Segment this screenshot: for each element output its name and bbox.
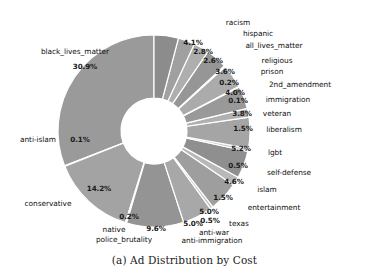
slice-category-label: entertainment <box>248 203 301 212</box>
donut-chart: 30.9%0.1%14.2%0.2%9.6%5.0%0.5%5.0%1.5%4.… <box>0 0 369 252</box>
slice-category-label: racism <box>226 18 250 27</box>
slice-percentage-label: 30.9% <box>73 62 97 71</box>
slice-percentage-label: 5.0% <box>199 207 219 216</box>
slice-percentage-label: 4.0% <box>225 88 245 97</box>
slice-category-label: texas <box>229 219 249 228</box>
slice-percentage-label: 0.5% <box>228 161 248 170</box>
figure-caption: (a) Ad Distribution by Cost <box>0 254 369 266</box>
slice-category-label: religious <box>262 56 293 65</box>
slice-category-label: black_lives_matter <box>41 47 109 56</box>
slice-category-label: hispanic <box>243 29 273 38</box>
slice-category-label: veteran <box>263 109 291 118</box>
slice-category-label: islam <box>257 185 276 194</box>
slice-category-label: anti-war <box>199 228 229 237</box>
slice-percentage-label: 0.5% <box>200 216 220 225</box>
slice-category-label: lgbt <box>268 148 282 157</box>
slice-percentage-label: 0.2% <box>119 212 139 221</box>
slice-percentage-label: 3.8% <box>232 109 252 118</box>
slice-category-label: all_lives_matter <box>245 41 302 50</box>
slice-category-label: anti-immigration <box>182 236 243 245</box>
slice-category-label: anti-islam <box>20 135 56 144</box>
slice-category-label: prison <box>261 67 284 76</box>
slice-percentage-label: 1.5% <box>213 193 233 202</box>
slice-category-label: self-defense <box>267 168 311 177</box>
slice-percentage-label: 3.6% <box>215 67 235 76</box>
slice-category-label: police_brutality <box>96 235 152 244</box>
slice-category-label: conservative <box>25 199 72 208</box>
slice-category-label: liberalism <box>266 125 302 134</box>
slice-percentage-label: 2.8% <box>193 47 213 56</box>
figure-ad-distribution: 30.9%0.1%14.2%0.2%9.6%5.0%0.5%5.0%1.5%4.… <box>0 0 369 280</box>
slice-percentage-label: 5.2% <box>231 144 251 153</box>
slice-category-label: immigration <box>266 95 310 104</box>
slice-percentage-label: 0.2% <box>219 78 239 87</box>
slice-percentage-label: 14.2% <box>87 184 111 193</box>
slice-percentage-label: 9.6% <box>146 224 166 233</box>
slice-percentage-label: 0.1% <box>70 135 90 144</box>
slice-percentage-label: 4.6% <box>224 177 244 186</box>
slice-percentage-label: 1.5% <box>233 124 253 133</box>
slice-percentage-label: 0.1% <box>228 96 248 105</box>
slice-percentage-label: 4.1% <box>183 38 203 47</box>
slice-percentage-label: 2.6% <box>203 56 223 65</box>
slice-category-label: native <box>103 225 126 234</box>
slice-category-label: 2nd_amendment <box>269 80 331 89</box>
